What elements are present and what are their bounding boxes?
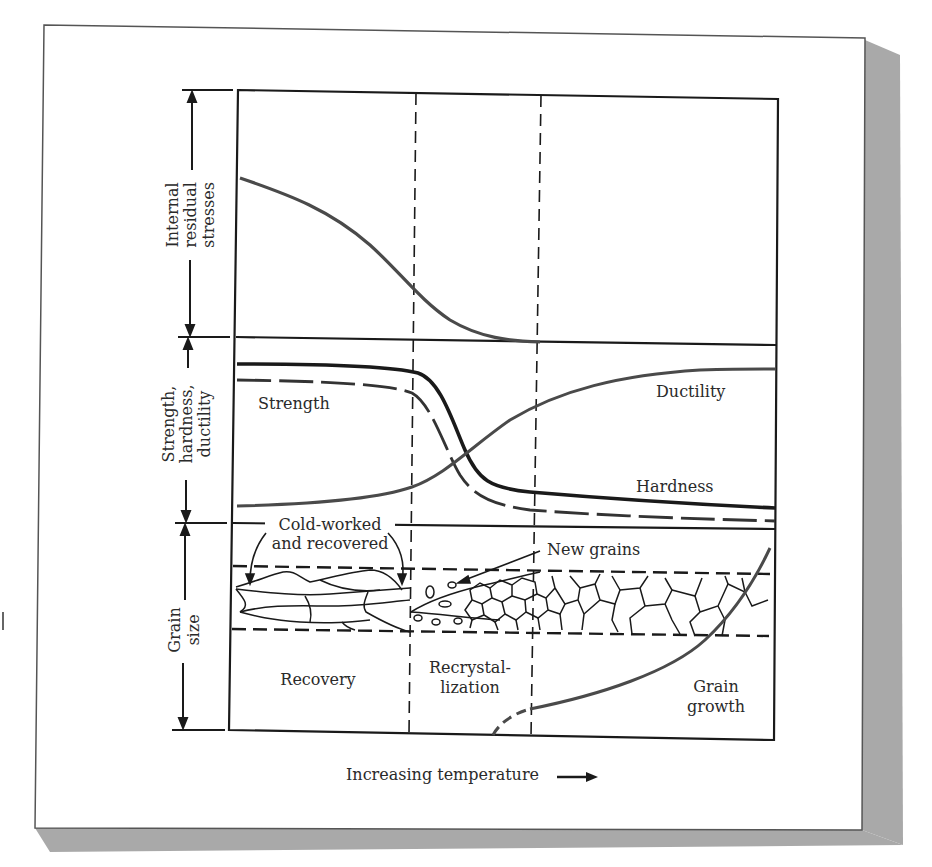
- svg-text:size: size: [184, 614, 203, 645]
- svg-text:Grain: Grain: [165, 607, 184, 652]
- label-ductility: Ductility: [656, 382, 725, 401]
- label-strength: Strength: [258, 394, 330, 413]
- label-recrystallization-1: Recrystal-: [429, 658, 511, 677]
- label-strength-hardness-ductility: Strength, hardness, ductility: [159, 384, 214, 463]
- stray-mark: [2, 612, 4, 630]
- x-axis-label: Increasing temperature: [346, 765, 539, 784]
- label-grain-growth-2: growth: [687, 697, 745, 716]
- svg-text:stresses: stresses: [199, 182, 218, 248]
- svg-text:hardness,: hardness,: [177, 384, 196, 463]
- label-grain-growth-1: Grain: [693, 677, 738, 696]
- figure-canvas: Internal residual stresses Strength, har…: [0, 0, 932, 867]
- svg-text:residual: residual: [181, 182, 200, 248]
- svg-text:Strength,: Strength,: [159, 386, 178, 463]
- label-hardness: Hardness: [636, 477, 714, 496]
- svg-text:and recovered: and recovered: [272, 534, 389, 553]
- label-new-grains: New grains: [547, 540, 640, 559]
- label-cold-worked: Cold-worked: [278, 515, 381, 534]
- label-recrystallization-2: lization: [440, 678, 500, 697]
- label-recovery: Recovery: [280, 670, 355, 689]
- svg-text:Internal: Internal: [163, 182, 182, 247]
- label-internal-residual-stresses: Internal residual stresses: [163, 182, 218, 248]
- svg-text:ductility: ductility: [195, 391, 214, 458]
